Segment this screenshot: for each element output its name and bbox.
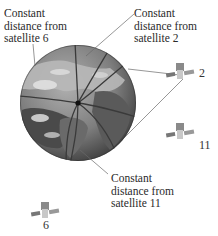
satellite-body-icon <box>177 130 183 139</box>
solar-panel-icon <box>166 72 176 78</box>
satellite-body-icon <box>177 70 183 79</box>
label-line: Constant <box>134 7 197 20</box>
label-line: distance from <box>134 20 197 33</box>
cloud <box>31 114 49 122</box>
label-line: satellite 11 <box>111 197 174 210</box>
solar-panel-icon <box>166 132 176 138</box>
satellite-number-2: 2 <box>199 66 205 81</box>
label-satellite-2: Constant distance from satellite 2 <box>134 7 197 45</box>
leader-satellite-2 <box>86 14 134 56</box>
label-line: Constant <box>111 172 174 185</box>
label-line: distance from <box>111 185 174 198</box>
satellite-6 <box>31 202 59 218</box>
satellite-number-6: 6 <box>43 218 49 233</box>
position-fix-dot <box>75 100 80 105</box>
leader-satellite-6 <box>33 44 35 66</box>
solar-panel-icon <box>49 209 60 215</box>
label-line: distance from <box>4 20 67 33</box>
label-line: satellite 6 <box>4 32 67 45</box>
solar-panel-icon <box>184 70 195 76</box>
earth-globe <box>18 42 140 165</box>
satellite-11 <box>166 123 194 139</box>
solar-panel-icon <box>184 130 195 136</box>
satellite-body-icon <box>176 123 184 131</box>
label-line: satellite 2 <box>134 32 197 45</box>
satellite-body-icon <box>42 209 48 218</box>
satellite-number-11: 11 <box>199 138 211 153</box>
satellite-body-icon <box>41 202 49 210</box>
satellite-body-icon <box>176 63 184 71</box>
label-satellite-6: Constant distance from satellite 6 <box>4 7 67 45</box>
satellite-2 <box>166 63 194 79</box>
label-line: Constant <box>4 7 67 20</box>
cloud <box>50 69 70 75</box>
cloud <box>44 132 60 138</box>
solar-panel-icon <box>31 211 41 217</box>
label-satellite-11: Constant distance from satellite 11 <box>111 172 174 210</box>
cloud <box>33 80 57 90</box>
